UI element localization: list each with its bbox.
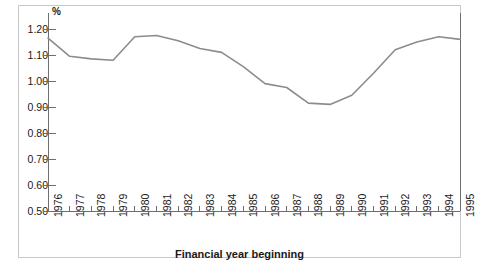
x-tick-label: 1986 <box>269 194 281 217</box>
x-tick-label: 1993 <box>421 194 433 217</box>
x-tick-label: 1984 <box>226 194 238 217</box>
chart-plot-area <box>0 0 479 272</box>
x-tick-label: 1987 <box>291 194 303 217</box>
x-tick-label: 1994 <box>443 194 455 217</box>
x-tick-label: 1990 <box>356 194 368 217</box>
x-tick-label: 1978 <box>95 194 107 217</box>
x-tick-label: 1977 <box>74 194 86 217</box>
x-tick-label: 1988 <box>312 194 324 217</box>
x-tick-label: 1989 <box>334 194 346 217</box>
data-series-line <box>48 36 460 105</box>
x-tick-label: 1983 <box>204 194 216 217</box>
x-tick-label: 1992 <box>399 194 411 217</box>
x-tick-label: 1991 <box>378 194 390 217</box>
x-tick-label: 1981 <box>161 194 173 217</box>
chart-figure: % 0.500.600.700.800.901.001.101.20 19761… <box>0 0 479 272</box>
x-tick-label: 1976 <box>52 194 64 217</box>
x-tick-label: 1995 <box>464 194 476 217</box>
x-tick-label: 1985 <box>247 194 259 217</box>
x-tick-label: 1980 <box>139 194 151 217</box>
x-axis-title: Financial year beginning <box>0 248 479 260</box>
x-tick-label: 1982 <box>182 194 194 217</box>
x-tick-label: 1979 <box>117 194 129 217</box>
